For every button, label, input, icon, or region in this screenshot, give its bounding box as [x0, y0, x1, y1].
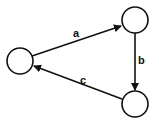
edge-label-b: b — [138, 54, 145, 66]
edge-label-a: a — [73, 27, 80, 39]
edge-c — [34, 66, 122, 99]
graph-diagram: a b c — [0, 0, 159, 123]
edge-label-c: c — [80, 74, 86, 86]
node-left — [7, 48, 33, 74]
node-top-right — [122, 7, 148, 33]
node-bottom-right — [122, 91, 148, 117]
